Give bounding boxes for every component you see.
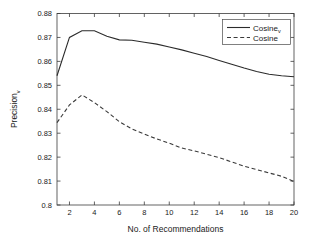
x-axis-tick-labels: 2468101214161820 <box>67 208 298 217</box>
x-tick-label: 10 <box>165 208 173 217</box>
y-tick-label: 0.84 <box>37 105 52 114</box>
precision-vs-recommendations-chart: 2468101214161820 0.80.810.820.830.840.85… <box>0 0 309 242</box>
y-tick-label: 0.88 <box>37 9 52 18</box>
y-tick-label: 0.86 <box>37 57 52 66</box>
y-tick-label: 0.85 <box>37 81 52 90</box>
y-tick-label: 0.81 <box>37 177 52 186</box>
x-tick-label: 12 <box>190 208 198 217</box>
x-tick-label: 16 <box>240 208 248 217</box>
y-axis-title-group: Precisionv <box>9 90 21 128</box>
legend: Cosinev Cosine <box>223 20 291 45</box>
legend-label-cosine-v: Cosinev <box>253 24 281 34</box>
y-tick-label: 0.83 <box>37 129 52 138</box>
y-axis-tick-labels: 0.80.810.820.830.840.850.860.870.88 <box>37 9 52 210</box>
series-line-cosine <box>57 95 294 182</box>
x-tick-label: 14 <box>215 208 223 217</box>
x-tick-label: 6 <box>117 208 121 217</box>
y-tick-label: 0.82 <box>37 153 52 162</box>
legend-label-cosine: Cosine <box>253 34 278 43</box>
y-axis-title: Precisionv <box>9 90 21 128</box>
x-tick-label: 2 <box>67 208 71 217</box>
x-tick-label: 20 <box>290 208 298 217</box>
y-tick-label: 0.8 <box>42 201 52 210</box>
x-axis-title: No. of Recommendations <box>128 224 224 234</box>
x-tick-label: 8 <box>142 208 146 217</box>
x-tick-label: 4 <box>92 208 96 217</box>
x-tick-label: 18 <box>265 208 273 217</box>
y-tick-label: 0.87 <box>37 33 52 42</box>
chart-figure: 2468101214161820 0.80.810.820.830.840.85… <box>0 0 309 242</box>
